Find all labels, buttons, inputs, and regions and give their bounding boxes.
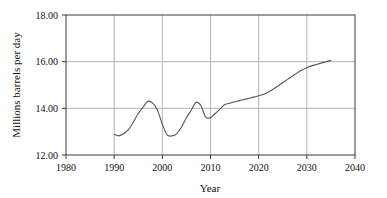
x-tick-label-1: 1990 bbox=[104, 162, 124, 173]
y-tick-label-3: 18.00 bbox=[36, 10, 59, 21]
x-tick-label-4: 2020 bbox=[249, 162, 269, 173]
y-tick-label-0: 12.00 bbox=[36, 150, 59, 161]
y-axis-title: Millions barrels per day bbox=[10, 32, 22, 138]
x-axis-title: Year bbox=[200, 182, 221, 194]
x-tick-label-2: 2000 bbox=[152, 162, 172, 173]
chart-figure: 1980199020002010202020302040 12.0014.001… bbox=[0, 0, 387, 198]
y-tick-label-1: 14.00 bbox=[36, 103, 59, 114]
y-tick-label-2: 16.00 bbox=[36, 56, 59, 67]
x-tick-label-5: 2030 bbox=[297, 162, 317, 173]
x-tick-label-6: 2040 bbox=[345, 162, 365, 173]
x-tick-label-0: 1980 bbox=[56, 162, 76, 173]
x-tick-label-3: 2010 bbox=[201, 162, 221, 173]
